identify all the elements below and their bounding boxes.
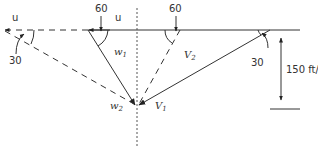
velocity-diagram: u u 60 60 30 30 w1 V2 w2 V1 150 ft/s	[0, 0, 318, 148]
pointer-30-left	[16, 34, 24, 54]
label-u-left: u	[12, 12, 18, 23]
pointer-30-right	[262, 33, 268, 48]
label-angle-30-left: 30	[9, 55, 22, 66]
label-w2: w2	[110, 100, 124, 113]
label-v1: V1	[155, 100, 167, 113]
label-dimension: 150 ft/s	[286, 64, 318, 75]
label-angle-60-left: 60	[95, 3, 108, 14]
angle-arc-v1	[258, 30, 261, 35]
angle-arc-v2	[165, 30, 172, 43]
diagram-svg: u u 60 60 30 30 w1 V2 w2 V1 150 ft/s	[0, 0, 318, 148]
w2-vector	[5, 31, 134, 104]
angle-arc-w2	[31, 30, 34, 44]
label-u-top: u	[115, 12, 121, 23]
label-angle-60-right: 60	[169, 3, 182, 14]
label-angle-30-right: 30	[251, 57, 264, 68]
w1-vector	[88, 30, 135, 105]
label-w1: w1	[114, 46, 127, 59]
angle-arc-w1	[98, 30, 108, 46]
label-v2: V2	[184, 49, 196, 62]
